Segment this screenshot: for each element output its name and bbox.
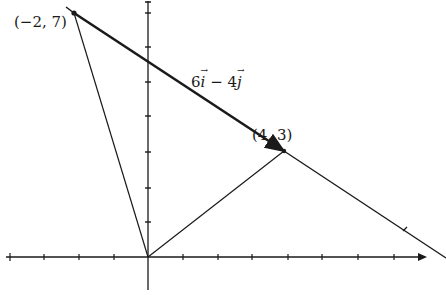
point-p-dot-icon xyxy=(71,10,76,15)
point-q-label: (4, 3) xyxy=(252,128,292,143)
vector-label-minus: − xyxy=(205,73,227,91)
segment-origin-to-p xyxy=(74,13,148,257)
x-axis xyxy=(6,253,427,261)
vector-label-i: i xyxy=(201,75,206,90)
vector-diagram: (−2, 7) (4, 3) 6i − 4j xyxy=(0,0,446,295)
line-extension-right xyxy=(284,151,446,258)
vector-label-coef-i: 6 xyxy=(191,73,201,91)
x-axis-arrow-icon xyxy=(418,253,427,261)
point-p-label: (−2, 7) xyxy=(14,15,67,30)
vector-label-j: j xyxy=(237,75,242,90)
point-q-dot-icon xyxy=(282,149,286,153)
vector-label-coef-j: 4 xyxy=(227,73,237,91)
vector-label: 6i − 4j xyxy=(191,75,242,90)
diagram-canvas xyxy=(0,0,446,295)
segment-origin-to-q xyxy=(148,151,284,257)
y-axis xyxy=(145,1,151,290)
